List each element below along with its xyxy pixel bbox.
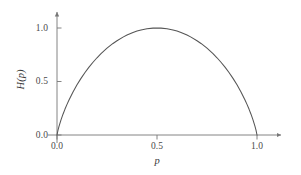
x-axis-title: p xyxy=(137,155,177,166)
entropy-curve xyxy=(57,28,257,135)
y-axis-title: H(p) xyxy=(15,50,26,110)
x-tick-marks xyxy=(57,135,257,140)
chart-figure: 1.0 0.5 0.0 0.0 0.5 1.0 p H(p) xyxy=(0,0,301,175)
y-tick-label-1: 1.0 xyxy=(18,23,48,33)
x-tick-label-0: 0.0 xyxy=(37,141,77,151)
y-tick-label-0: 0.0 xyxy=(18,130,48,140)
x-tick-label-1: 1.0 xyxy=(237,141,277,151)
x-tick-label-0-5: 0.5 xyxy=(137,141,177,151)
